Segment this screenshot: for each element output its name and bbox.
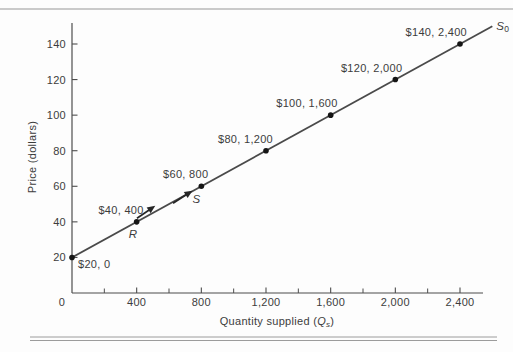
data-point-label: $120, 2,000 [341, 62, 402, 74]
x-axis-tick-label: 0 [59, 296, 65, 308]
y-axis-title: Price (dollars) [26, 121, 38, 193]
x-axis-tick-label: 2,400 [445, 296, 474, 308]
y-axis-tick-label: 60 [53, 180, 66, 192]
data-point [393, 77, 399, 83]
data-point [263, 148, 269, 154]
y-axis-tick-label: 140 [47, 38, 66, 50]
data-point [69, 255, 75, 261]
x-axis-tick-label: 2,000 [381, 296, 410, 308]
data-point-label: $80, 1,200 [218, 133, 273, 145]
data-point [134, 219, 140, 225]
x-axis-tick-label: 1,200 [251, 296, 280, 308]
y-axis-tick-label: 40 [53, 216, 66, 228]
point-annotation-r: R [129, 228, 138, 240]
x-axis-tick-label: 1,600 [316, 296, 345, 308]
data-point-label: $40, 400 [98, 204, 143, 216]
y-axis-tick-label: 80 [53, 145, 66, 157]
data-point-label: $20, 0 [78, 258, 110, 270]
y-axis-tick-label: 120 [47, 74, 66, 86]
data-point [328, 112, 334, 118]
data-point [199, 183, 205, 189]
point-annotation-s: S [192, 193, 200, 205]
y-axis-tick-label: 20 [53, 251, 66, 263]
x-axis-title: Quantity supplied (Qs) [220, 315, 335, 329]
x-axis-tick-label: 800 [192, 296, 211, 308]
textbook-figure-page: 2040608010012014004008001,2001,6002,0002… [0, 0, 513, 352]
x-axis-tick-label: 400 [127, 296, 146, 308]
supply-curve-figure: 2040608010012014004008001,2001,6002,0002… [0, 0, 513, 352]
data-point-label: $140, 2,400 [406, 26, 467, 38]
data-point-label: $60, 800 [163, 168, 208, 180]
y-axis-tick-label: 100 [47, 109, 66, 121]
data-point [457, 41, 463, 47]
data-point-label: $100, 1,600 [276, 97, 337, 109]
